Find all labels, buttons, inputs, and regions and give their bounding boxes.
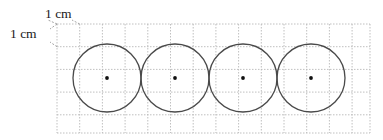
label-horizontal-1cm: 1 cm (45, 6, 72, 21)
circle-center-dot-1 (105, 76, 109, 80)
circle-center-dot-4 (309, 76, 313, 80)
circle-center-dot-3 (241, 76, 245, 80)
geometry-figure: 1 cm 1 cm (0, 0, 383, 140)
figure-container: 1 cm 1 cm (0, 0, 383, 140)
circle-center-dot-2 (173, 76, 177, 80)
label-vertical-1cm: 1 cm (10, 26, 37, 41)
